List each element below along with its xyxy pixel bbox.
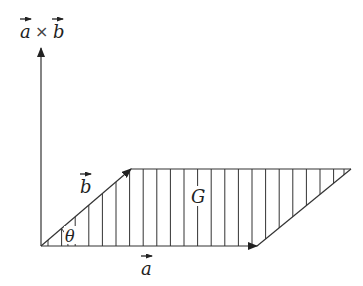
cross-label-times: × (35, 22, 48, 41)
vector-a-label: a (141, 258, 152, 279)
area-label: G (191, 186, 205, 207)
cross-label-a: a (20, 21, 31, 42)
angle-label: θ (65, 227, 75, 246)
vector-b-label: b (80, 176, 92, 197)
cross-label-b: b (53, 21, 65, 42)
right-edge (257, 169, 351, 246)
parallelogram-diagram: θ a × b b a G (0, 0, 363, 286)
